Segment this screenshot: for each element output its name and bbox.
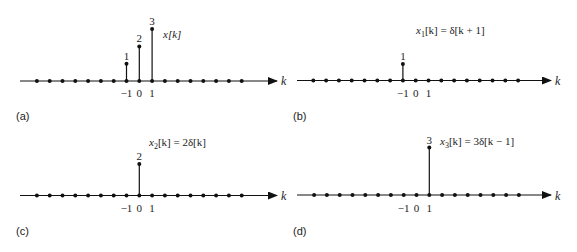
sample-dot bbox=[48, 194, 52, 198]
tick-label: 0 bbox=[413, 87, 419, 99]
sample-dot bbox=[48, 79, 52, 83]
stem-value-label: 2 bbox=[137, 150, 143, 162]
stem-dot bbox=[125, 62, 129, 66]
sample-dot bbox=[491, 193, 495, 197]
sample-dot bbox=[440, 193, 444, 197]
panel-c-equation: x2[k] = 2δ[k] bbox=[148, 136, 206, 151]
sample-dot bbox=[125, 194, 129, 198]
sample-dot bbox=[338, 193, 342, 197]
tick-label: 1 bbox=[149, 87, 155, 99]
sample-dot bbox=[516, 79, 520, 83]
stem-value-label: 1 bbox=[124, 50, 130, 62]
tick-label: −1 bbox=[398, 202, 410, 214]
panel-b-equation: x1[k] = δ[k + 1] bbox=[415, 24, 485, 39]
panel-d-axis-label: k bbox=[555, 189, 561, 203]
stem-dot bbox=[427, 146, 431, 150]
panel-b: 1−101 bbox=[297, 50, 551, 99]
sample-dot bbox=[35, 194, 39, 198]
panel-c: 2−101 bbox=[20, 150, 277, 214]
sample-dot bbox=[150, 79, 154, 83]
stem-plot-figure: 123−101 x[k] k (a) 1−101 x1[k] = δ[k + 1… bbox=[0, 0, 577, 252]
panel-a-equation: x[k] bbox=[162, 28, 181, 40]
sample-dot bbox=[176, 79, 180, 83]
sample-dot bbox=[201, 194, 205, 198]
sample-dot bbox=[415, 193, 419, 197]
sample-dot bbox=[517, 193, 521, 197]
sample-dot bbox=[163, 79, 167, 83]
stem-value-label: 3 bbox=[149, 15, 155, 27]
sample-dot bbox=[214, 79, 218, 83]
stem-value-label: 1 bbox=[400, 50, 406, 62]
panel-a: 123−101 bbox=[20, 15, 277, 99]
sample-dot bbox=[376, 193, 380, 197]
sample-dot bbox=[427, 79, 431, 83]
sample-dot bbox=[163, 194, 167, 198]
sample-dot bbox=[189, 194, 193, 198]
sample-dot bbox=[363, 193, 367, 197]
tick-label: −1 bbox=[121, 87, 133, 99]
sample-dot bbox=[453, 193, 457, 197]
sample-dot bbox=[388, 79, 392, 83]
stem-value-label: 2 bbox=[137, 32, 143, 44]
stem-value-label: 3 bbox=[427, 134, 433, 146]
sample-dot bbox=[73, 194, 77, 198]
sample-dot bbox=[86, 79, 90, 83]
tick-label: 1 bbox=[149, 202, 155, 214]
sample-dot bbox=[176, 194, 180, 198]
sample-dot bbox=[61, 79, 65, 83]
sample-dot bbox=[375, 79, 379, 83]
sample-dot bbox=[86, 194, 90, 198]
sample-dot bbox=[214, 194, 218, 198]
sample-dot bbox=[324, 79, 328, 83]
sample-dot bbox=[137, 79, 141, 83]
stem-dot bbox=[137, 44, 141, 48]
sample-dot bbox=[503, 79, 507, 83]
sample-dot bbox=[311, 79, 315, 83]
tick-label: 1 bbox=[427, 202, 433, 214]
sample-dot bbox=[479, 193, 483, 197]
tick-label: 0 bbox=[137, 87, 143, 99]
sample-dot bbox=[150, 194, 154, 198]
sample-dot bbox=[227, 79, 231, 83]
panel-d-label: (d) bbox=[293, 225, 306, 237]
sample-dot bbox=[466, 193, 470, 197]
sample-dot bbox=[389, 193, 393, 197]
sample-dot bbox=[351, 193, 355, 197]
stem-dot bbox=[401, 62, 405, 66]
sample-dot bbox=[112, 194, 116, 198]
panel-b-axis-label: k bbox=[555, 74, 561, 88]
sample-dot bbox=[452, 79, 456, 83]
sample-dot bbox=[337, 79, 341, 83]
sample-dot bbox=[491, 79, 495, 83]
sample-dot bbox=[312, 193, 316, 197]
sample-dot bbox=[227, 194, 231, 198]
panel-c-axis-label: k bbox=[281, 189, 287, 203]
tick-label: −1 bbox=[121, 202, 133, 214]
sample-dot bbox=[401, 79, 405, 83]
sample-dot bbox=[240, 79, 244, 83]
tick-label: 0 bbox=[414, 202, 420, 214]
stem-dot bbox=[150, 27, 154, 31]
sample-dot bbox=[240, 194, 244, 198]
panel-a-axis-label: k bbox=[281, 74, 287, 88]
sample-dot bbox=[439, 79, 443, 83]
tick-label: 1 bbox=[426, 87, 432, 99]
sample-dot bbox=[35, 79, 39, 83]
panel-c-label: (c) bbox=[16, 225, 29, 237]
sample-dot bbox=[414, 79, 418, 83]
panel-d-equation: x3[k] = 3δ[k − 1] bbox=[439, 135, 514, 150]
sample-dot bbox=[325, 193, 329, 197]
sample-dot bbox=[61, 194, 65, 198]
sample-dot bbox=[189, 79, 193, 83]
sample-dot bbox=[504, 193, 508, 197]
sample-dot bbox=[73, 79, 77, 83]
sample-dot bbox=[427, 193, 431, 197]
panel-b-label: (b) bbox=[293, 110, 306, 122]
tick-label: −1 bbox=[397, 87, 409, 99]
sample-dot bbox=[137, 194, 141, 198]
sample-dot bbox=[465, 79, 469, 83]
sample-dot bbox=[402, 193, 406, 197]
sample-dot bbox=[478, 79, 482, 83]
sample-dot bbox=[125, 79, 129, 83]
stem-dot bbox=[137, 162, 141, 166]
